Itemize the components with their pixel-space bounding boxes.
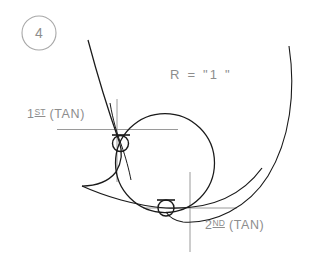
second-tangent-label-number: 2 bbox=[205, 218, 213, 232]
diagram-canvas: 4 1ST (TAN) R = "1 " 2ND (TAN) bbox=[0, 0, 313, 272]
first-tangent-label-ordinal: ST bbox=[35, 107, 46, 117]
first-tangent-label: 1ST (TAN) bbox=[27, 107, 85, 121]
radius-annotation: R = "1 " bbox=[170, 67, 232, 82]
first-tangent-label-number: 1 bbox=[27, 107, 35, 121]
first-tangent-label-rest: (TAN) bbox=[45, 107, 84, 121]
second-tangent-label-rest: (TAN) bbox=[225, 218, 264, 232]
main-circle bbox=[116, 114, 215, 213]
second-tangent-label-ordinal: ND bbox=[213, 218, 225, 228]
step-badge-number: 4 bbox=[22, 16, 56, 50]
second-tangent-label: 2ND (TAN) bbox=[205, 218, 264, 232]
